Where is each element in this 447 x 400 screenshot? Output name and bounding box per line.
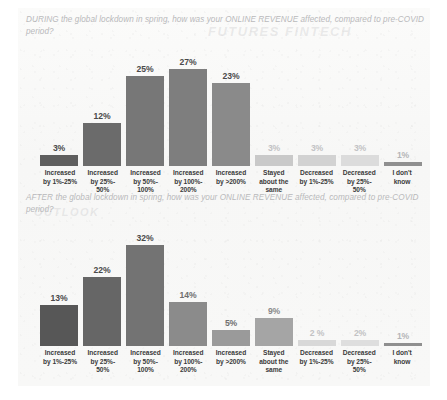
x-axis-label: Increasedby 25%-50% (83, 169, 123, 195)
x-axis-label: I don'tknow (382, 169, 422, 195)
bar-rect (169, 69, 207, 166)
bar-group: 27% (169, 40, 207, 166)
x-axis-label-line: Increased (168, 349, 208, 358)
x-axis-label: Increasedby 1%-25% (40, 349, 80, 375)
x-axis-label-line: 100% (126, 366, 166, 375)
bar-value-label: 5% (225, 318, 237, 328)
x-axis-label-line: by 25%- (339, 358, 379, 367)
x-axis-label-line: Decreased (297, 349, 337, 358)
chart-1-baseline (40, 165, 422, 166)
chart-1-bars: 3%12%25%27%23%3%3%3%1% (40, 40, 422, 166)
bar-group: 1% (384, 40, 422, 166)
bar-group: 1% (384, 218, 422, 346)
bar-rect (83, 123, 121, 166)
bar-value-label: 1% (397, 331, 409, 341)
x-axis-label-line: know (382, 358, 422, 367)
x-axis-label-line: by 1%-25% (297, 178, 337, 187)
scanned-page: FUTURES FINTECH OUTLOOK DURING the globa… (0, 0, 447, 400)
bar-rect (212, 330, 250, 346)
x-axis-label-line: same (254, 366, 294, 375)
x-axis-label-line: by 100%- (168, 178, 208, 187)
bar-group: 3% (341, 40, 379, 166)
bar-value-label: 12% (94, 111, 111, 121)
bar-group: 25% (126, 40, 164, 166)
x-axis-label-line: Increased (83, 349, 123, 358)
x-axis-label-line: Stayed (254, 169, 294, 178)
x-axis-label-line: by 50%- (126, 178, 166, 187)
x-axis-label-line: Increased (211, 169, 251, 178)
bar-group: 9% (255, 218, 293, 346)
x-axis-label-line: about the (254, 358, 294, 367)
x-axis-label-line: by 25%- (83, 178, 123, 187)
x-axis-label-line: by 25%- (339, 178, 379, 187)
bar-group: 32% (126, 218, 164, 346)
bar-value-label: 25% (137, 64, 154, 74)
x-axis-label: Increasedby 25%-50% (83, 349, 123, 375)
x-axis-label-line: Decreased (339, 349, 379, 358)
bar-value-label: 3% (354, 143, 366, 153)
bar-rect (255, 318, 293, 346)
x-axis-label: Decreasedby 25%-50% (339, 349, 379, 375)
chart-2-plot-area: 13%22%32%14%5%9%2 %2%1% (18, 218, 430, 346)
x-axis-label: Increasedby 100%-200% (168, 169, 208, 195)
bar-rect (83, 277, 121, 346)
x-axis-label-line: 200% (168, 366, 208, 375)
bar-value-label: 9% (268, 306, 280, 316)
bar-value-label: 3% (311, 143, 323, 153)
x-axis-label-line: Decreased (339, 169, 379, 178)
bar-group: 3% (40, 40, 78, 166)
bar-rect (40, 305, 78, 346)
x-axis-label-line: about the (254, 178, 294, 187)
x-axis-label-line: by 100%- (168, 358, 208, 367)
x-axis-label-line: by >200% (211, 358, 251, 367)
bar-value-label: 14% (180, 290, 197, 300)
bar-value-label: 3% (53, 143, 65, 153)
chart-1-x-axis-labels: Increasedby 1%-25%Increasedby 25%-50%Inc… (40, 169, 422, 195)
x-axis-label-line: know (382, 178, 422, 187)
bar-group: 5% (212, 218, 250, 346)
bar-value-label: 32% (137, 233, 154, 243)
x-axis-label-line: Increased (168, 169, 208, 178)
chart-2-x-axis-labels: Increasedby 1%-25%Increasedby 25%-50%Inc… (40, 349, 422, 375)
bar-group: 2% (341, 218, 379, 346)
x-axis-label: Increasedby 50%-100% (126, 169, 166, 195)
bar-value-label: 23% (223, 71, 240, 81)
x-axis-label-line: Increased (83, 169, 123, 178)
x-axis-label: I don'tknow (382, 349, 422, 375)
x-axis-label-line: by 50%- (126, 358, 166, 367)
bar-rect (212, 83, 250, 166)
x-axis-label-line: Increased (211, 349, 251, 358)
x-axis-label-line: Decreased (297, 169, 337, 178)
x-axis-label-line: Increased (126, 349, 166, 358)
x-axis-label-line: 50% (339, 366, 379, 375)
chart-2-title: AFTER the global lockdown in spring, how… (26, 192, 426, 215)
x-axis-label-line: I don't (382, 349, 422, 358)
x-axis-label-line: 50% (83, 366, 123, 375)
x-axis-label: Increasedby 1%-25% (40, 169, 80, 195)
x-axis-label-line: Stayed (254, 349, 294, 358)
bar-group: 2 % (298, 218, 336, 346)
bar-group: 12% (83, 40, 121, 166)
x-axis-label-line: by 1%-25% (297, 358, 337, 367)
chart-after-lockdown: AFTER the global lockdown in spring, how… (18, 192, 430, 378)
chart-2-bars: 13%22%32%14%5%9%2 %2%1% (40, 218, 422, 346)
bar-value-label: 27% (180, 57, 197, 67)
x-axis-label-line: Increased (40, 349, 80, 358)
x-axis-label-line: I don't (382, 169, 422, 178)
bar-rect (126, 76, 164, 166)
x-axis-label: Increasedby >200% (211, 349, 251, 375)
x-axis-label-line: by 25%- (83, 358, 123, 367)
bar-group: 22% (83, 218, 121, 346)
bar-rect (169, 302, 207, 346)
bar-group: 13% (40, 218, 78, 346)
x-axis-label-line: Increased (40, 169, 80, 178)
chart-1-plot-area: 3%12%25%27%23%3%3%3%1% (18, 40, 430, 166)
bar-rect (126, 245, 164, 346)
bar-value-label: 22% (94, 265, 111, 275)
x-axis-label: Decreasedby 1%-25% (297, 169, 337, 195)
bar-value-label: 13% (51, 293, 68, 303)
chart-1-title: DURING the global lockdown in spring, ho… (26, 14, 426, 37)
x-axis-label-line: by 1%-25% (40, 178, 80, 187)
bar-group: 3% (298, 40, 336, 166)
bar-value-label: 2 % (310, 328, 325, 338)
